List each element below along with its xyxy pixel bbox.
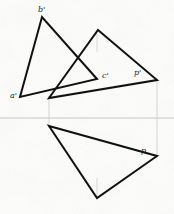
label-b-prime: b' [38,6,45,14]
drawing-canvas [0,0,174,214]
label-p: p [141,147,146,155]
triangle-lower-projection [49,126,157,198]
label-c-prime: c' [102,72,109,80]
label-a-prime: a' [10,92,17,100]
triangle-upper-projection [49,30,157,98]
label-p-prime: p' [134,69,141,77]
triangles-group [20,17,157,198]
geometry-figure: b' a' c' p' p [0,0,174,214]
construction-lines-group [49,33,157,197]
